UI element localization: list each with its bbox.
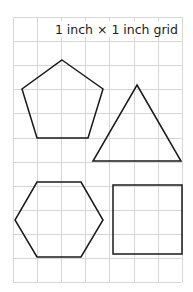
inch-grid — [13, 17, 183, 283]
grid-figure: 1 inch × 1 inch grid — [0, 0, 193, 292]
triangle-shape — [93, 85, 181, 161]
hexagon-shape — [15, 182, 103, 257]
pentagon-shape — [22, 60, 103, 138]
square-shape — [113, 185, 182, 254]
grid-caption: 1 inch × 1 inch grid — [55, 22, 178, 37]
